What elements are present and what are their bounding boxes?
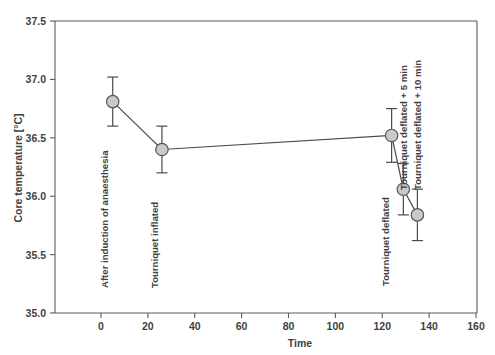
- data-point-marker: [107, 95, 119, 107]
- x-tick-label: 160: [467, 320, 485, 332]
- chart-canvas: 35.035.536.036.537.037.5 020406080100120…: [0, 0, 495, 355]
- point-label: Tourniquet deflated: [380, 197, 391, 286]
- x-tick-label: 80: [283, 320, 295, 332]
- x-tick-label: 100: [327, 320, 345, 332]
- x-axis-title: Time: [288, 337, 312, 349]
- x-tick-label: 0: [98, 320, 104, 332]
- data-point-marker: [156, 143, 168, 155]
- series-line: [113, 102, 418, 215]
- x-tick-group: 020406080100120140160: [98, 313, 485, 332]
- y-axis-title: Core temperature [°C]: [12, 113, 24, 222]
- x-tick-label: 120: [373, 320, 391, 332]
- y-tick-label: 36.5: [26, 132, 47, 144]
- point-label-group: After induction of anaesthesiaTourniquet…: [99, 60, 423, 288]
- point-label: Tourniquet deflated + 5 min: [398, 65, 409, 190]
- data-point-marker: [385, 129, 397, 141]
- y-tick-group: 35.035.536.036.537.037.5: [26, 15, 55, 319]
- y-tick-label: 37.0: [26, 73, 47, 85]
- x-tick-label: 60: [236, 320, 248, 332]
- core-temperature-chart: 35.035.536.036.537.037.5 020406080100120…: [0, 0, 495, 355]
- x-tick-label: 40: [189, 320, 201, 332]
- point-label: Tourniquet inflated: [149, 202, 160, 288]
- point-label: Tourniquet deflated + 10 min: [412, 60, 423, 190]
- y-tick-label: 37.5: [26, 15, 47, 27]
- x-tick-label: 20: [142, 320, 154, 332]
- y-tick-label: 36.0: [26, 190, 47, 202]
- x-tick-label: 140: [420, 320, 438, 332]
- data-point-marker: [411, 209, 423, 221]
- y-tick-label: 35.5: [26, 249, 47, 261]
- point-label: After induction of anaesthesia: [99, 150, 110, 288]
- y-tick-label: 35.0: [26, 307, 47, 319]
